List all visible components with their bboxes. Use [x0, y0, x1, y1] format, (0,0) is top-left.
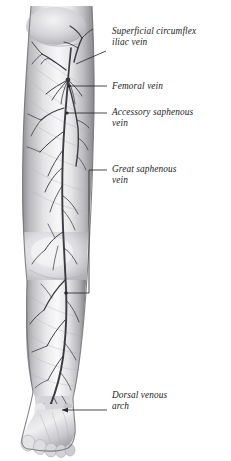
anatomical-figure: Superficial circumflex iliac vein Femora…	[0, 0, 231, 461]
label-accessory-saphenous-vein: Accessory saphenous vein	[112, 107, 193, 130]
toe-3	[45, 443, 57, 457]
leg-region	[26, 280, 86, 400]
label-dorsal-venous-arch: Dorsal venous arch	[112, 390, 167, 413]
leader-dot-accessory-saphenous-vein	[65, 111, 68, 114]
label-femoral-vein: Femoral vein	[112, 81, 163, 92]
leader-dot-femoral-vein	[67, 84, 70, 87]
label-great-saphenous-vein: Great saphenous vein	[112, 164, 176, 187]
toe-2	[34, 440, 47, 455]
leader-dot-great-saphenous-vein	[64, 291, 68, 295]
limb-body	[21, 6, 94, 458]
label-superficial-circumflex-iliac-vein: Superficial circumflex iliac vein	[112, 26, 196, 49]
